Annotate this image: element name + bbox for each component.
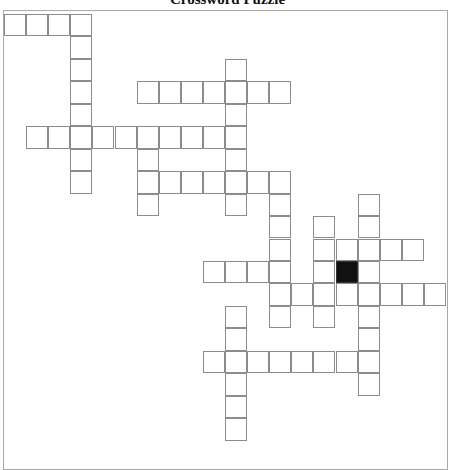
grid-cell[interactable] <box>137 194 159 216</box>
grid-cell[interactable] <box>203 351 225 373</box>
grid-cell[interactable] <box>358 194 380 216</box>
grid-cell[interactable] <box>70 149 92 171</box>
grid-cell[interactable] <box>424 283 446 305</box>
grid-cell[interactable] <box>225 104 247 126</box>
grid-cell[interactable] <box>402 239 424 261</box>
grid-cell[interactable] <box>225 328 247 350</box>
grid-cell[interactable] <box>225 149 247 171</box>
grid-cell[interactable] <box>358 306 380 328</box>
grid-cell[interactable] <box>70 59 92 81</box>
grid-cell[interactable] <box>269 283 291 305</box>
grid-cell[interactable] <box>225 126 247 148</box>
grid-cell[interactable] <box>225 351 247 373</box>
grid-cell[interactable] <box>181 171 203 193</box>
grid-cell[interactable] <box>26 126 48 148</box>
grid-cell[interactable] <box>203 171 225 193</box>
grid-cell[interactable] <box>358 261 380 283</box>
grid-cell[interactable] <box>48 14 70 36</box>
grid-cell[interactable] <box>70 126 92 148</box>
grid-cell[interactable] <box>225 306 247 328</box>
grid-cell[interactable] <box>291 283 313 305</box>
grid-cell[interactable] <box>291 351 313 373</box>
grid-cell[interactable] <box>137 149 159 171</box>
grid-cell[interactable] <box>269 261 291 283</box>
grid-cell[interactable] <box>4 14 26 36</box>
grid-cell[interactable] <box>358 239 380 261</box>
grid-cell[interactable] <box>203 261 225 283</box>
grid-cell[interactable] <box>269 216 291 238</box>
grid-cell[interactable] <box>159 171 181 193</box>
grid-cell[interactable] <box>225 418 247 440</box>
grid-cell[interactable] <box>26 14 48 36</box>
grid-cell[interactable] <box>336 351 358 373</box>
grid-cell[interactable] <box>247 351 269 373</box>
grid-cell[interactable] <box>380 283 402 305</box>
grid-cell[interactable] <box>247 171 269 193</box>
grid-cell[interactable] <box>92 126 114 148</box>
grid-cell[interactable] <box>269 194 291 216</box>
grid-cell[interactable] <box>269 351 291 373</box>
grid-cell[interactable] <box>380 239 402 261</box>
grid-cell[interactable] <box>313 351 335 373</box>
grid-cell[interactable] <box>137 126 159 148</box>
grid-cell[interactable] <box>247 261 269 283</box>
grid-cell[interactable] <box>70 104 92 126</box>
grid-cell[interactable] <box>225 194 247 216</box>
grid-cell[interactable] <box>313 306 335 328</box>
grid-cell[interactable] <box>70 171 92 193</box>
grid-cell[interactable] <box>225 171 247 193</box>
grid-cell[interactable] <box>70 14 92 36</box>
grid-cell[interactable] <box>358 216 380 238</box>
grid-cell[interactable] <box>225 373 247 395</box>
grid-cell[interactable] <box>313 261 335 283</box>
grid-cell[interactable] <box>137 81 159 103</box>
grid-cell[interactable] <box>358 283 380 305</box>
grid-cell[interactable] <box>269 306 291 328</box>
grid-cell[interactable] <box>313 239 335 261</box>
grid-cell[interactable] <box>269 81 291 103</box>
grid-cell[interactable] <box>269 239 291 261</box>
grid-cell[interactable] <box>70 36 92 58</box>
grid-cell[interactable] <box>225 261 247 283</box>
grid-cell[interactable] <box>181 81 203 103</box>
grid-cell[interactable] <box>181 126 203 148</box>
grid-cell[interactable] <box>225 59 247 81</box>
grid-cell[interactable] <box>159 81 181 103</box>
grid-cell[interactable] <box>358 351 380 373</box>
grid-cell[interactable] <box>247 81 269 103</box>
grid-cell[interactable] <box>137 171 159 193</box>
grid-cell[interactable] <box>159 126 181 148</box>
grid-cell[interactable] <box>225 396 247 418</box>
grid-cell[interactable] <box>313 283 335 305</box>
grid-cell[interactable] <box>203 126 225 148</box>
grid-cell[interactable] <box>225 81 247 103</box>
grid-cell[interactable] <box>269 171 291 193</box>
grid-cell[interactable] <box>48 126 70 148</box>
grid-cell[interactable] <box>402 283 424 305</box>
grid-cell[interactable] <box>313 216 335 238</box>
grid-cell[interactable] <box>203 81 225 103</box>
grid-cell[interactable] <box>336 239 358 261</box>
grid-cell[interactable] <box>358 328 380 350</box>
block-cell <box>336 261 358 283</box>
grid-cell[interactable] <box>358 373 380 395</box>
grid-cell[interactable] <box>70 81 92 103</box>
grid-cell[interactable] <box>336 283 358 305</box>
grid-cell[interactable] <box>115 126 137 148</box>
